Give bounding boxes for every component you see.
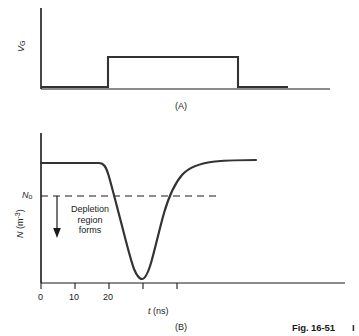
panel-b-tag: (B) (175, 322, 187, 333)
depletion-arrow-head (53, 228, 61, 238)
panel-a-graphics (41, 8, 330, 89)
tick-label-0: 0 (38, 292, 43, 303)
depletion-annotation: Depletion region forms (63, 204, 117, 236)
tick-label-10: 10 (69, 292, 79, 303)
reference-label-no: No (22, 190, 32, 201)
panel-b-x-axis-label: t (ns) (148, 306, 169, 317)
figure-graphics (0, 0, 359, 336)
figure-caption-cut: I (352, 322, 355, 333)
figure-container: VG (A) N (m-3) No Depletion region forms… (0, 0, 359, 336)
panel-b-y-axis-label: N (m-3) (14, 209, 26, 238)
panel-a-y-axis-label: VG (16, 41, 27, 52)
gate-voltage-pulse-trace (41, 57, 288, 87)
tick-label-20: 20 (103, 292, 113, 303)
panel-a-tag: (A) (175, 101, 187, 112)
figure-caption: Fig. 16-51 (292, 322, 335, 333)
